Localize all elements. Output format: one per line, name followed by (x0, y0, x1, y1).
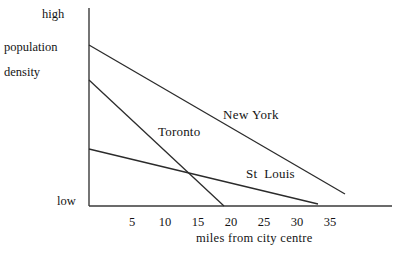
chart-figure: high low population density miles from c… (0, 0, 400, 254)
y-axis-high-label: high (42, 8, 64, 21)
series-line-new-york (89, 45, 345, 194)
x-tick-label-10: 10 (159, 216, 172, 229)
series-label-st-louis: St Louis (246, 167, 295, 180)
y-axis-title-line-2: density (4, 66, 40, 79)
y-axis-title-line-1: population (4, 41, 57, 54)
x-tick-label-30: 30 (291, 216, 304, 229)
x-tick-label-15: 15 (192, 216, 205, 229)
x-tick-label-20: 20 (225, 216, 238, 229)
x-axis-title: miles from city centre (196, 232, 313, 245)
x-tick-label-35: 35 (324, 216, 337, 229)
series-lines-group (89, 45, 345, 206)
series-label-toronto: Toronto (158, 125, 200, 138)
x-tick-label-5: 5 (129, 216, 135, 229)
x-tick-label-25: 25 (258, 216, 271, 229)
series-label-new-york: New York (223, 108, 279, 121)
series-line-toronto (89, 80, 224, 206)
y-axis-low-label: low (57, 195, 76, 208)
